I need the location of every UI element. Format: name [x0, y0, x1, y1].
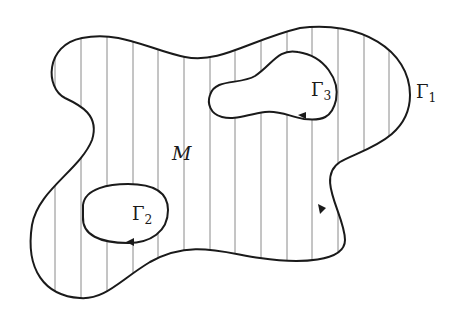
- inner-boundary-gamma-2: [83, 184, 168, 243]
- manifold-label-text: M: [172, 142, 191, 164]
- gamma-2-label: Γ2: [132, 205, 152, 227]
- gamma-2-symbol: Γ: [132, 203, 145, 224]
- orientation-arrow-gamma-1: [318, 204, 326, 214]
- orientation-arrow-gamma-2: [126, 238, 134, 246]
- gamma-3-subscript: 3: [324, 89, 332, 103]
- gamma-1-label: Γ1: [416, 83, 436, 105]
- outer-boundary-gamma-1: [31, 27, 410, 298]
- manifold-label: M: [172, 144, 191, 163]
- hatching: [55, 0, 389, 332]
- gamma-1-symbol: Γ: [416, 81, 429, 102]
- gamma-2-subscript: 2: [145, 213, 153, 227]
- gamma-3-symbol: Γ: [311, 79, 324, 100]
- manifold-diagram: [0, 0, 466, 332]
- gamma-3-label: Γ3: [311, 81, 331, 103]
- gamma-1-subscript: 1: [429, 91, 437, 105]
